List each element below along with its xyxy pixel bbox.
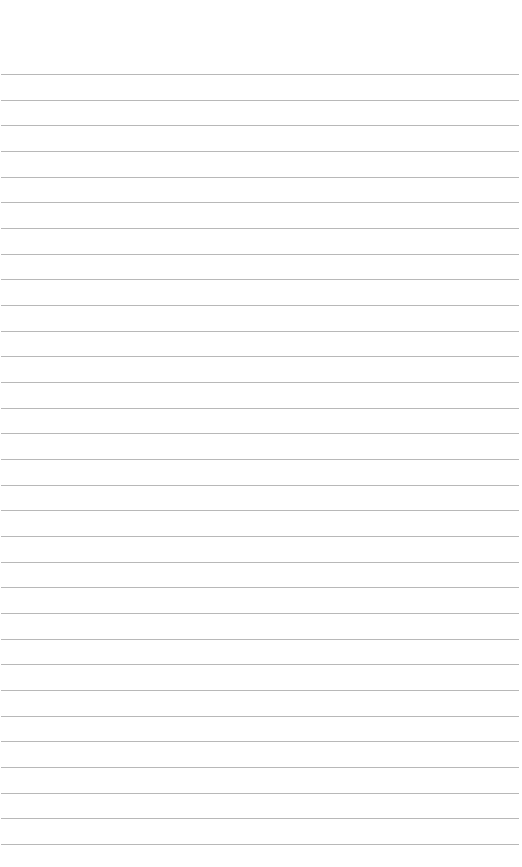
- ruled-line: [1, 125, 519, 126]
- ruled-line: [1, 408, 519, 409]
- ruled-line: [1, 562, 519, 563]
- ruled-line: [1, 356, 519, 357]
- ruled-line: [1, 767, 519, 768]
- ruled-line: [1, 639, 519, 640]
- ruled-line: [1, 741, 519, 742]
- ruled-line: [1, 485, 519, 486]
- ruled-line: [1, 100, 519, 101]
- ruled-line: [1, 510, 519, 511]
- ruled-line: [1, 305, 519, 306]
- ruled-line: [1, 202, 519, 203]
- ruled-line: [1, 536, 519, 537]
- ruled-line: [1, 279, 519, 280]
- ruled-line: [1, 331, 519, 332]
- ruled-line: [1, 818, 519, 819]
- ruled-line: [1, 690, 519, 691]
- ruled-line: [1, 716, 519, 717]
- ruled-line: [1, 587, 519, 588]
- ruled-line: [1, 613, 519, 614]
- ruled-line: [1, 664, 519, 665]
- ruled-line: [1, 844, 519, 845]
- ruled-line: [1, 254, 519, 255]
- ruled-line: [1, 151, 519, 152]
- ruled-line: [1, 793, 519, 794]
- ruled-line: [1, 433, 519, 434]
- ruled-line: [1, 459, 519, 460]
- ruled-line: [1, 177, 519, 178]
- ruled-line: [1, 74, 519, 75]
- ruled-line: [1, 228, 519, 229]
- ruled-line: [1, 382, 519, 383]
